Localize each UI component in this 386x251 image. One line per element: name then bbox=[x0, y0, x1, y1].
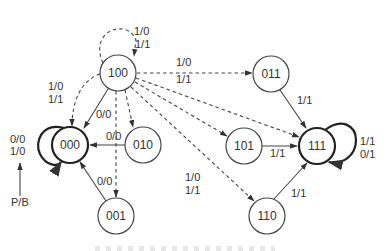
label-100-011-b: 1/1 bbox=[176, 73, 191, 85]
label-100-000-b: 1/1 bbox=[48, 93, 63, 105]
state-000-label: 000 bbox=[60, 138, 80, 152]
state-101[interactable]: 101 bbox=[226, 128, 262, 164]
label-100-110-b: 1/1 bbox=[185, 184, 200, 196]
state-010[interactable]: 010 bbox=[125, 127, 161, 163]
state-011[interactable]: 011 bbox=[253, 56, 289, 92]
label-111-self-a: 1/1 bbox=[360, 135, 375, 147]
label-100-self-a: 1/0 bbox=[134, 25, 149, 37]
label-100-011-a: 1/0 bbox=[176, 56, 191, 68]
edge-labels: 1/0 1/1 1/0 1/1 0/0 1/0 1/1 1/0 1/1 0/0 … bbox=[10, 25, 375, 208]
state-111[interactable]: 111 bbox=[299, 128, 335, 164]
label-100-self-b: 1/1 bbox=[135, 38, 150, 50]
label-000-self-b: 1/0 bbox=[10, 145, 25, 157]
state-100-label: 100 bbox=[108, 66, 128, 80]
label-111-self-b: 0/1 bbox=[360, 148, 375, 160]
label-101-111: 1/1 bbox=[270, 147, 285, 159]
label-001-000: 0/0 bbox=[97, 175, 112, 187]
label-000-self-a: 0/0 bbox=[10, 133, 25, 145]
label-100-000-solid: 0/0 bbox=[96, 108, 111, 120]
pointer-label: P/B bbox=[11, 196, 29, 208]
state-001-label: 001 bbox=[106, 209, 126, 223]
state-010-label: 010 bbox=[133, 138, 153, 152]
label-011-111: 1/1 bbox=[297, 94, 312, 106]
state-110[interactable]: 110 bbox=[249, 198, 285, 234]
label-010-000: 0/0 bbox=[106, 130, 121, 142]
state-101-label: 101 bbox=[234, 139, 254, 153]
label-100-000-a: 1/0 bbox=[48, 80, 63, 92]
label-110-111: 1/1 bbox=[291, 187, 306, 199]
state-011-label: 011 bbox=[261, 67, 280, 81]
state-diagram: 000 001 010 011 100 101 110 111 bbox=[0, 0, 386, 251]
state-000[interactable]: 000 bbox=[52, 127, 88, 163]
state-001[interactable]: 001 bbox=[98, 198, 134, 234]
state-111-label: 111 bbox=[308, 139, 327, 153]
state-110-label: 110 bbox=[257, 209, 276, 223]
label-100-110-a: 1/0 bbox=[185, 171, 200, 183]
state-100[interactable]: 100 bbox=[100, 55, 136, 91]
edge-100-010 bbox=[125, 90, 133, 127]
cropped-caption bbox=[95, 246, 275, 251]
